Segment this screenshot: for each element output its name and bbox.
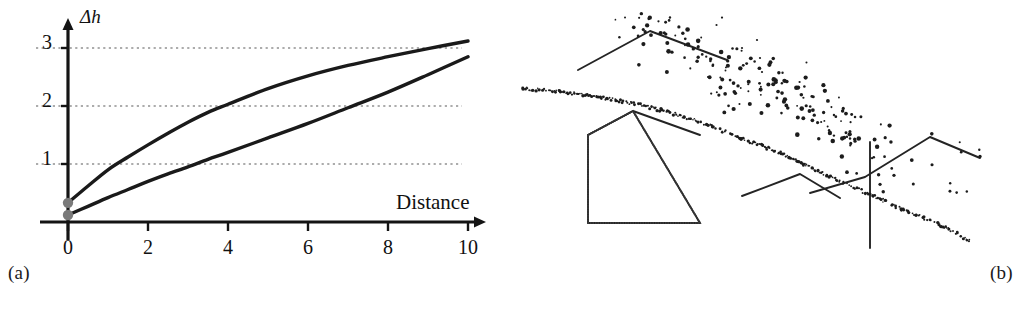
terrain-point [933, 221, 935, 223]
terrain-point [899, 206, 901, 208]
vegetation-point [782, 79, 786, 83]
terrain-point [812, 168, 814, 170]
vegetation-point [823, 89, 827, 93]
vegetation-point [840, 120, 842, 122]
terrain-point [860, 188, 863, 191]
vegetation-point [696, 39, 701, 44]
vegetation-point [820, 121, 822, 123]
vegetation-point [741, 50, 743, 52]
series-upper-curve [68, 41, 468, 203]
vegetation-point [813, 114, 816, 117]
terrain-point [902, 209, 905, 212]
y-tick-label-2: 2 [30, 89, 52, 112]
terrain-point [930, 220, 932, 222]
vegetation-point [715, 24, 717, 26]
vegetation-point [828, 131, 832, 135]
vegetation-point [840, 154, 844, 158]
y-axis-label: Δh [80, 6, 101, 28]
terrain-point [543, 88, 545, 90]
vegetation-point [645, 23, 649, 27]
vegetation-point [882, 190, 885, 193]
vegetation-point [841, 109, 844, 112]
vegetation-point [783, 97, 787, 101]
vegetation-point [758, 82, 761, 85]
vegetation-point [781, 82, 783, 84]
vegetation-point [700, 36, 702, 38]
vegetation-point [817, 137, 821, 141]
vegetation-point [705, 56, 707, 58]
terrain-point [814, 170, 817, 173]
terrain-point [703, 124, 705, 126]
vegetation-point [697, 45, 700, 48]
vegetation-point [729, 79, 732, 82]
vegetation-point [725, 70, 727, 72]
vegetation-point [767, 63, 771, 67]
terrain-point [821, 171, 823, 173]
terrain-point [668, 111, 671, 114]
vegetation-point [826, 99, 830, 103]
terrain-point [609, 97, 611, 99]
vegetation-point [749, 56, 753, 60]
vegetation-point [759, 88, 763, 92]
terrain-point [783, 152, 785, 154]
terrain-point [765, 148, 768, 151]
terrain-guide-path [522, 88, 970, 241]
terrain-point [926, 219, 928, 221]
vegetation-point [780, 91, 784, 95]
vegetation-point [689, 67, 691, 69]
vegetation-point [707, 76, 709, 78]
house-roof-outline [588, 111, 700, 135]
vegetation-point [803, 85, 806, 88]
vegetation-point [799, 106, 804, 111]
roof-point [674, 34, 676, 36]
x-axis-label: Distance [396, 190, 469, 215]
vegetation-point [759, 111, 763, 115]
terrain-point [882, 198, 884, 200]
terrain-point [742, 137, 745, 140]
terrain-point [706, 124, 709, 127]
vegetation-point [736, 84, 739, 87]
vegetation-point [978, 155, 981, 158]
terrain-point [966, 239, 968, 241]
vegetation-point [798, 81, 800, 83]
vegetation-point [731, 47, 734, 50]
terrain-point [869, 193, 872, 196]
vegetation-point [966, 190, 968, 192]
vegetation-point [810, 95, 813, 98]
terrain-point [683, 116, 686, 119]
roof-point [618, 36, 620, 38]
x-tick-label-0: 0 [63, 236, 73, 259]
terrain-point [534, 89, 537, 92]
vegetation-point [666, 49, 671, 54]
vegetation-point [833, 134, 835, 136]
vegetation-point [683, 56, 686, 59]
terrain-point [622, 99, 625, 102]
vegetation-point [878, 183, 881, 186]
roof-point [632, 26, 636, 30]
start-point-lower [63, 210, 73, 220]
terrain-point [732, 133, 734, 135]
vegetation-point [670, 50, 673, 53]
vegetation-point [747, 90, 749, 92]
vegetation-point [760, 86, 762, 88]
vegetation-point [727, 104, 730, 107]
y-tick-label-1: 1 [30, 147, 52, 170]
house-outline-scan [588, 111, 700, 223]
vegetation-point [809, 105, 812, 108]
terrain-point [694, 118, 696, 120]
panel-b-point-cloud: (b) [490, 0, 986, 313]
vegetation-point [884, 136, 887, 139]
vegetation-point [800, 93, 804, 97]
terrain-point [919, 214, 921, 216]
vegetation-point [859, 115, 862, 118]
vegetation-point [758, 66, 762, 70]
vegetation-point [834, 115, 837, 118]
x-tick-label-10: 10 [458, 236, 478, 259]
y-axis-arrowhead [63, 18, 74, 30]
roof-point [668, 19, 671, 22]
terrain-point [885, 199, 887, 201]
terrain-point [538, 88, 541, 91]
isolated-point [759, 57, 761, 59]
vegetation-point [838, 97, 840, 99]
